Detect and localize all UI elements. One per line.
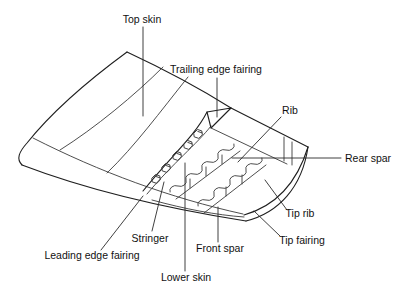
lower-edge-silhouette — [22, 165, 246, 221]
tip-fairing-leader — [254, 211, 280, 236]
rib-wavy-flange-2 — [198, 158, 262, 206]
rib-base-line-1 — [176, 151, 240, 199]
label-rib: Rib — [282, 104, 298, 116]
trailing-edge-fairing-wedge — [207, 108, 231, 128]
cutaway-structure — [143, 108, 308, 213]
label-stringer: Stringer — [132, 232, 169, 244]
stringer-section-2 — [184, 140, 193, 150]
label-rear-spar: Rear spar — [345, 152, 392, 164]
label-trailing-edge-fairing: Trailing edge fairing — [170, 63, 262, 75]
rib-wavy-flange-1 — [170, 144, 234, 192]
top-skin-panel-line-2 — [107, 77, 188, 173]
wing-structure-figure: Top skin Trailing edge fairing Rib Rear … — [0, 0, 401, 296]
root-edge-curve — [19, 52, 127, 165]
label-leading-edge-fairing: Leading edge fairing — [44, 249, 139, 261]
wing-structure-diagram: Top skin Trailing edge fairing Rib Rear … — [0, 0, 401, 296]
label-front-spar: Front spar — [196, 242, 244, 254]
label-tip-rib: Tip rib — [286, 207, 315, 219]
rib-leader — [238, 117, 281, 162]
tip-rib-leader — [265, 180, 287, 210]
top-skin-panel-line-1 — [60, 67, 163, 150]
label-top-skin: Top skin — [123, 13, 162, 25]
label-lower-skin: Lower skin — [161, 271, 211, 283]
rib-base-line-2 — [204, 165, 266, 213]
stringer-sections — [152, 129, 203, 184]
labels: Top skin Trailing edge fairing Rib Rear … — [44, 13, 391, 283]
label-tip-fairing: Tip fairing — [279, 234, 325, 246]
tip-rib-curve — [244, 147, 308, 215]
rear-spar-web-posts — [284, 137, 292, 165]
wing-outline — [19, 52, 308, 221]
